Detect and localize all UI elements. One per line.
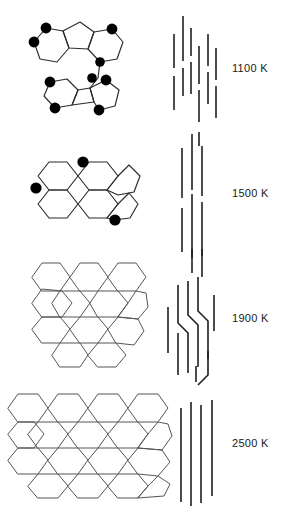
temperature-label-1500: 1500 K [232, 187, 269, 199]
marker-atom [109, 214, 120, 225]
temperature-label-1100: 1100 K [232, 62, 268, 74]
marker-atom [87, 73, 97, 83]
structure-2500 [4, 388, 174, 500]
caption-strip [0, 509, 287, 523]
panel-row-1900: 1900 K [0, 255, 287, 380]
marker-atom [95, 57, 105, 67]
panel-row-1500: 1500 K [0, 130, 287, 255]
temperature-label-1900: 1900 K [232, 312, 269, 324]
side-view-1500 [172, 130, 228, 255]
side-view-1900 [164, 255, 234, 383]
figure-canvas: 1100 K [0, 0, 287, 523]
side-view-1100 [168, 6, 230, 126]
panel-row-2500: 2500 K [0, 380, 287, 523]
side-view-2500 [172, 380, 228, 515]
marker-atom [107, 24, 118, 35]
marker-atom [41, 23, 52, 34]
marker-atom [77, 156, 88, 167]
structure-1100 [14, 8, 144, 118]
marker-atom [45, 77, 56, 88]
marker-atom [94, 105, 105, 116]
marker-atom [101, 75, 112, 86]
temperature-label-2500: 2500 K [232, 437, 269, 449]
marker-atom [50, 103, 61, 114]
marker-atom [30, 182, 41, 193]
panel-row-1100: 1100 K [0, 0, 287, 130]
marker-atom [29, 37, 40, 48]
structure-1500 [22, 148, 142, 233]
structure-1900 [26, 255, 148, 360]
